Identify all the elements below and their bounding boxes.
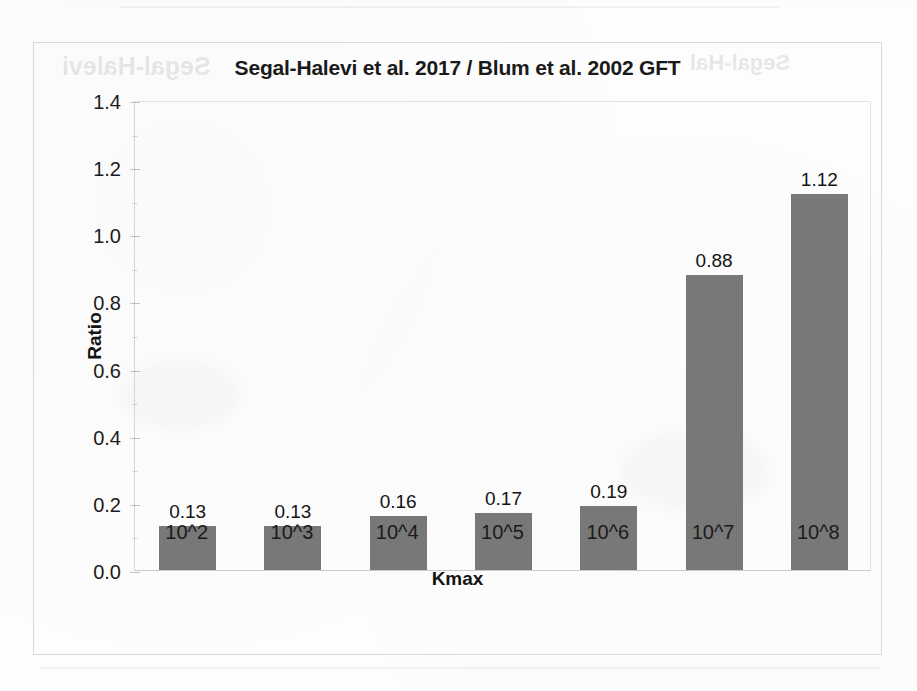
x-tick-label: 10^8: [797, 521, 840, 544]
bar-group[interactable]: 0.17: [464, 102, 544, 570]
y-tick-minor-mark: [132, 136, 138, 137]
bar-group[interactable]: 0.13: [148, 102, 228, 570]
y-tick-mark: [130, 169, 140, 170]
chart-frame: Segal-Halevi et al. 2017 / Blum et al. 2…: [33, 42, 882, 655]
y-tick-minor-mark: [132, 471, 138, 472]
y-tick-label: 1.4: [51, 91, 121, 114]
bar-value-label: 0.88: [696, 250, 733, 272]
y-tick-minor-mark: [132, 404, 138, 405]
y-axis-title: Ratio: [84, 312, 106, 360]
y-tick-mark: [130, 303, 140, 304]
x-tick-label: 10^7: [692, 521, 735, 544]
y-tick-mark: [130, 438, 140, 439]
y-tick-mark: [130, 505, 140, 506]
bar-value-label: 1.12: [801, 169, 838, 191]
y-tick-minor-mark: [132, 337, 138, 338]
chart-title: Segal-Halevi et al. 2017 / Blum et al. 2…: [34, 56, 881, 80]
x-tick-label: 10^5: [481, 521, 524, 544]
bar-group[interactable]: 0.16: [358, 102, 438, 570]
x-tick-label: 10^3: [271, 521, 314, 544]
y-tick-label: 0.6: [51, 359, 121, 382]
y-tick-minor-mark: [132, 538, 138, 539]
bar-value-label: 0.17: [485, 488, 522, 510]
page-edge-line-bottom: [40, 667, 880, 669]
y-tick-minor-mark: [132, 203, 138, 204]
y-tick-mark: [130, 102, 140, 103]
bar-group[interactable]: 1.12: [779, 102, 859, 570]
y-tick-mark: [130, 371, 140, 372]
bar-group[interactable]: 0.19: [569, 102, 649, 570]
y-tick-label: 1.0: [51, 225, 121, 248]
y-tick-label: 0.2: [51, 493, 121, 516]
bar[interactable]: [791, 194, 848, 570]
x-tick-label: 10^2: [165, 521, 208, 544]
x-tick-label: 10^6: [586, 521, 629, 544]
x-tick-label: 10^4: [376, 521, 419, 544]
bar-group[interactable]: 0.13: [253, 102, 333, 570]
bar-value-label: 0.16: [380, 491, 417, 513]
y-tick-label: 1.2: [51, 158, 121, 181]
y-tick-minor-mark: [132, 270, 138, 271]
bar-group[interactable]: 0.88: [674, 102, 754, 570]
plot-area: Ratio 0.00.20.40.60.81.01.21.4 0.130.130…: [134, 101, 871, 571]
y-tick-label: 0.8: [51, 292, 121, 315]
x-axis-title: Kmax: [34, 568, 881, 590]
bar-value-label: 0.19: [590, 481, 627, 503]
y-tick-mark: [130, 236, 140, 237]
y-tick-label: 0.4: [51, 426, 121, 449]
page-edge-line-top: [120, 6, 780, 8]
